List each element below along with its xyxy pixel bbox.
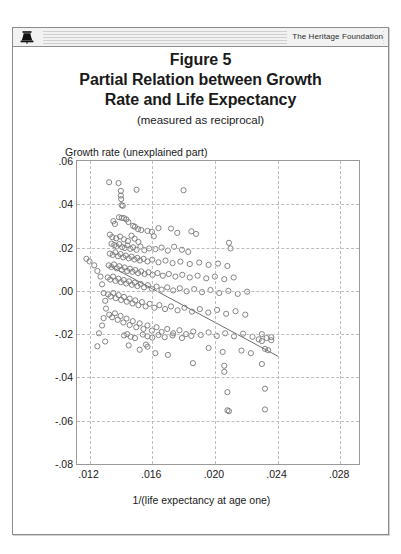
- scatter-chart: Growth rate (unexplained part) .06.04.02…: [13, 146, 390, 536]
- data-points-layer: [77, 161, 359, 464]
- y-tick-label: -.02: [37, 328, 73, 340]
- x-tick-label: .028: [329, 468, 349, 480]
- publisher-name: The Heritage Foundation: [287, 30, 383, 44]
- figure-subtitle: (measured as reciprocal): [13, 112, 388, 129]
- figure-page: The Heritage Foundation Figure 5 Partial…: [0, 0, 401, 554]
- gridline-vertical: [278, 161, 279, 464]
- y-axis-title: Growth rate (unexplained part): [65, 146, 207, 158]
- gridline-horizontal: [77, 204, 359, 205]
- liberty-bell-icon: [18, 30, 38, 45]
- gridline-horizontal: [77, 291, 359, 292]
- x-tick-label: .012: [78, 468, 98, 480]
- gridline-horizontal: [77, 248, 359, 249]
- y-tick-label: .06: [37, 155, 73, 167]
- publisher-header-band: The Heritage Foundation: [13, 28, 388, 47]
- gridline-vertical: [340, 161, 341, 464]
- y-tick-label: -.04: [37, 371, 73, 383]
- y-tick-label: .00: [37, 285, 73, 297]
- y-tick-label: .02: [37, 242, 73, 254]
- y-tick-label: -.08: [37, 458, 73, 470]
- gridline-horizontal: [77, 334, 359, 335]
- x-axis-ticks: .012.016.020.024.028: [76, 468, 360, 484]
- x-tick-label: .024: [266, 468, 286, 480]
- figure-title-line-2: Rate and Life Expectancy: [13, 90, 388, 110]
- y-tick-label: -.06: [37, 415, 73, 427]
- figure-number: Figure 5: [13, 50, 388, 70]
- figure-title-line-1: Partial Relation between Growth: [13, 70, 388, 90]
- y-tick-label: .04: [37, 198, 73, 210]
- x-tick-label: .020: [204, 468, 224, 480]
- gridline-vertical: [90, 161, 91, 464]
- plot-area: [76, 160, 360, 465]
- figure-frame: The Heritage Foundation Figure 5 Partial…: [12, 27, 389, 535]
- gridline-vertical: [152, 161, 153, 464]
- gridline-horizontal: [77, 377, 359, 378]
- gridline-horizontal: [77, 421, 359, 422]
- y-axis-ticks: .06.04.02.00-.02-.04-.06-.08: [33, 160, 73, 465]
- gridline-vertical: [215, 161, 216, 464]
- x-tick-label: .016: [141, 468, 161, 480]
- title-block: Figure 5 Partial Relation between Growth…: [13, 50, 388, 129]
- x-axis-title: 1/(life expectancy at age one): [13, 494, 390, 506]
